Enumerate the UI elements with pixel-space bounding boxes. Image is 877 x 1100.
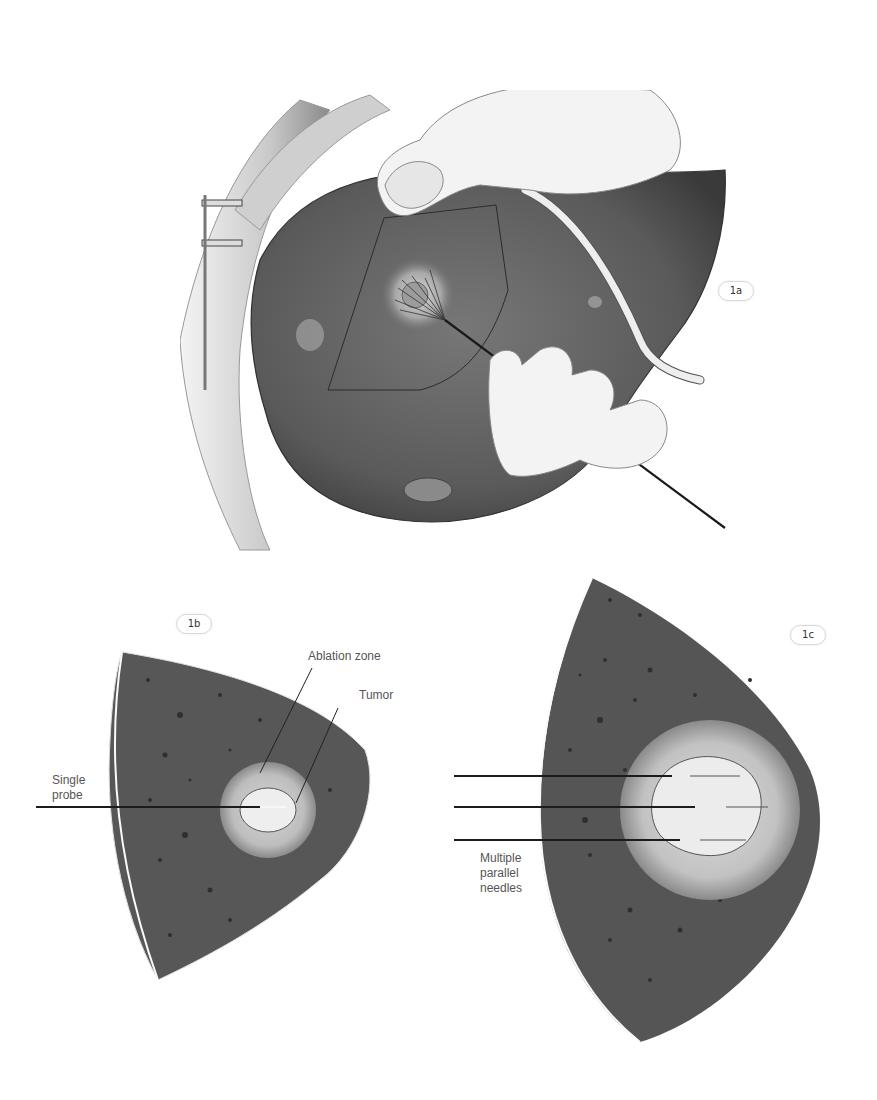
- panel-badge-1a: 1a: [718, 281, 754, 301]
- multi-needle-ultrasound-sector: [450, 570, 840, 1050]
- label-ablation-zone: Ablation zone: [308, 649, 381, 664]
- tumor: [240, 788, 296, 832]
- panel-1b-sector: [30, 640, 470, 990]
- liver-surgery-illustration: [180, 90, 740, 560]
- panel-badge-1b: 1b: [176, 614, 212, 634]
- label-multiple-parallel-needles: Multiple parallel needles: [480, 851, 522, 896]
- liver-shape: [251, 170, 725, 522]
- label-multiple-line3: needles: [480, 881, 522, 896]
- panel-1a-illustration: [180, 90, 740, 560]
- panel-1c-sector: [450, 570, 840, 1050]
- label-single-probe: Single probe: [52, 773, 85, 803]
- label-tumor: Tumor: [359, 688, 393, 703]
- label-single-probe-line1: Single: [52, 773, 85, 788]
- label-single-probe-line2: probe: [52, 788, 85, 803]
- label-multiple-line1: Multiple: [480, 851, 522, 866]
- label-multiple-line2: parallel: [480, 866, 522, 881]
- single-probe-ultrasound-sector: [30, 640, 470, 990]
